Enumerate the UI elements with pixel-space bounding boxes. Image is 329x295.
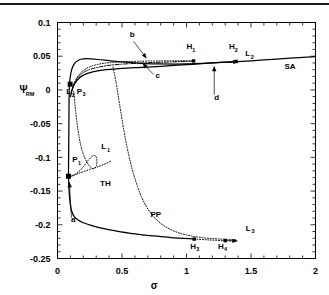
annotation-a: a [71,215,76,224]
y-axis-label-subscript: RM [26,91,35,97]
y-tick-label: -0.1 [35,153,51,163]
bifurcation-plot: 00.511.520.10.050-0.05-0.1-0.15-0.2-0.25… [0,0,329,295]
x-tick-label: 0 [55,266,60,276]
marker-H3 [193,237,196,240]
y-tick-label: 0.1 [38,18,51,28]
annotation-L2: L [245,49,250,58]
marker-label-subscript: 4 [224,246,228,252]
figure-canvas: 00.511.520.10.050-0.05-0.1-0.15-0.2-0.25… [0,0,329,295]
y-tick-label: 0 [45,85,50,95]
y-tick-label: -0.25 [30,254,51,264]
x-tick-label: 2 [313,266,318,276]
annotation-L2: L [66,87,71,96]
annotation-PP: PP [150,210,161,219]
x-axis-label: σ [151,280,158,291]
annotation-L1: L [101,142,106,151]
x-tick-label: 1 [184,266,189,276]
marker-P1 [66,174,71,179]
marker-H1 [192,59,195,62]
y-tick-label: -0.15 [30,186,51,196]
annotation-SA: SA [285,62,296,71]
annotation-subscript: 3 [82,91,85,97]
curve-lower-solid-upper-arc [70,62,235,97]
annotation-L3: L [246,224,251,233]
annotation-subscript: 2 [251,54,254,60]
annotation-TH: TH [100,179,111,188]
annotation-subscript: 3 [251,228,254,234]
curve-PP [68,176,194,239]
arrow-b-head [142,53,147,58]
marker-H4 [224,239,227,242]
annotation-c: c [156,71,161,80]
plot-frame [58,23,316,259]
arrow-d-head [212,66,216,71]
marker-label-subscript: 1 [192,47,195,53]
annotation-d: d [214,93,219,102]
annotation-subscript: 1 [107,147,110,153]
marker-label-subscript: 2 [235,47,238,53]
x-tick-label: 0.5 [116,266,129,276]
marker-P2 [68,82,73,87]
x-tick-label: 1.5 [245,266,258,276]
y-tick-label: -0.2 [35,220,51,230]
y-tick-label: -0.05 [30,119,51,129]
y-tick-label: 0.05 [33,51,51,61]
annotation-subscript: 2 [72,92,75,98]
marker-label-subscript: 3 [196,246,199,252]
annotation-b: b [130,30,135,39]
curve-SA [68,57,315,177]
annotation-subscript: 1 [78,160,81,166]
